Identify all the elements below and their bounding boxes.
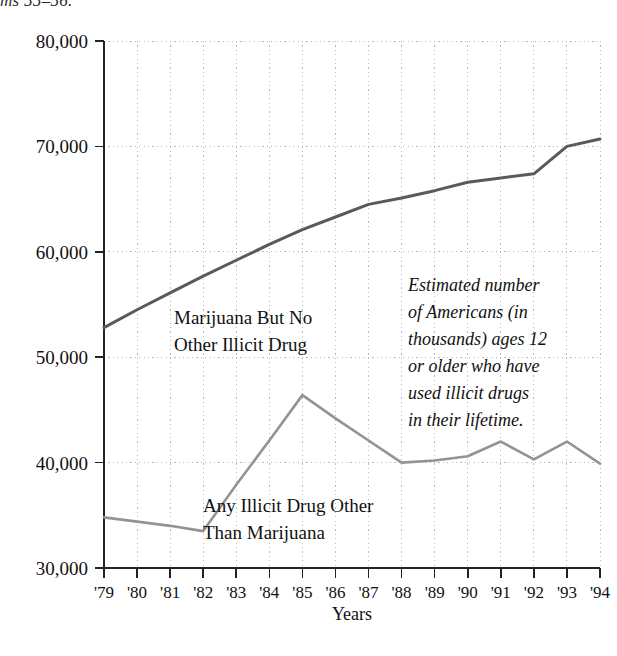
x-tick-label: '82 xyxy=(193,583,213,602)
y-tick-label: 30,000 xyxy=(36,558,88,579)
x-tick-label: '80 xyxy=(127,583,147,602)
x-tick-label: '91 xyxy=(491,583,511,602)
x-tick-label: '92 xyxy=(524,583,544,602)
x-tick-label: '90 xyxy=(458,583,478,602)
series-label-marijuana-only-line1: Marijuana But No xyxy=(174,307,312,328)
series-label-other-illicit-line2: Than Marijuana xyxy=(203,522,325,543)
data-series-1 xyxy=(104,139,600,328)
y-axis-tick-labels: 30,00040,00050,00060,00070,00080,000 xyxy=(36,31,88,579)
series-label-marijuana-only: Marijuana But No Other Illicit Drug xyxy=(174,307,312,355)
x-tick-label: '86 xyxy=(325,583,345,602)
series-label-other-illicit: Any Illicit Drug Other Than Marijuana xyxy=(203,495,374,543)
x-tick-label: '83 xyxy=(226,583,246,602)
annotation-line: Estimated number xyxy=(407,275,540,295)
x-axis-ticks xyxy=(104,568,600,578)
y-axis-ticks xyxy=(95,41,104,568)
x-tick-label: '85 xyxy=(292,583,312,602)
annotation-line: used illicit drugs xyxy=(408,383,529,403)
series-label-other-illicit-line1: Any Illicit Drug Other xyxy=(203,495,374,516)
chart-annotation: Estimated numberof Americans (inthousand… xyxy=(407,275,547,430)
annotation-line: or older who have xyxy=(408,356,539,376)
annotation-line: of Americans (in xyxy=(408,302,528,323)
x-axis-tick-labels: '79'80'81'82'83'84'85'86'87'88'89'90'91'… xyxy=(94,583,611,602)
y-tick-label: 40,000 xyxy=(36,453,88,474)
x-tick-label: '94 xyxy=(590,583,611,602)
y-tick-label: 70,000 xyxy=(36,136,88,157)
x-tick-label: '89 xyxy=(425,583,445,602)
x-tick-label: '84 xyxy=(259,583,280,602)
y-tick-label: 60,000 xyxy=(36,242,88,263)
x-tick-label: '88 xyxy=(392,583,412,602)
annotation-line: in their lifetime. xyxy=(408,410,523,430)
x-tick-label: '79 xyxy=(94,583,114,602)
x-axis-title: Years xyxy=(332,604,372,624)
y-tick-label: 80,000 xyxy=(36,31,88,52)
x-tick-label: '93 xyxy=(557,583,577,602)
annotation-line: thousands) ages 12 xyxy=(408,329,547,350)
chart-figure: ms 55–56. 30,00040,00050,00060,00070,000… xyxy=(0,0,617,656)
line-chart: 30,00040,00050,00060,00070,00080,000 '79… xyxy=(0,0,617,656)
x-tick-label: '87 xyxy=(358,583,379,602)
x-tick-label: '81 xyxy=(160,583,180,602)
y-tick-label: 50,000 xyxy=(36,347,88,368)
series-label-marijuana-only-line2: Other Illicit Drug xyxy=(174,334,307,355)
